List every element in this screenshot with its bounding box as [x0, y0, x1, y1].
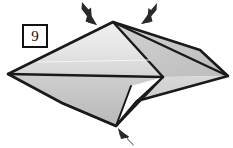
arrow-bottom-icon [118, 128, 134, 146]
step-number-label: 9 [31, 29, 39, 44]
arrow-top-left-icon [82, 2, 98, 25]
step-number-box: 9 [22, 24, 48, 48]
arrow-top-right-icon [141, 3, 157, 24]
origami-step-figure: 9 [0, 0, 233, 148]
origami-diagram-svg [0, 0, 233, 148]
